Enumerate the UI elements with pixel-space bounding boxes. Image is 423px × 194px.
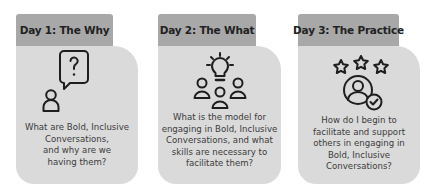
person-question-speech-bubble-icon: [42, 50, 90, 112]
tab-day-2: Day 2: The What: [158, 14, 256, 46]
card-title: Day 2: The What: [160, 24, 255, 36]
tab-day-1: Day 1: The Why: [16, 14, 113, 46]
card-title: Day 1: The Why: [20, 24, 110, 36]
card-day-3: Day 3: The Practice How do I begin to fa…: [298, 14, 420, 184]
user-stars-checkmark-icon: [332, 55, 390, 111]
card-description: What are Bold, Inclusive Conversations, …: [16, 122, 138, 168]
card-description: How do I begin to facilitate and support…: [298, 115, 420, 173]
card-day-1: Day 1: The Why What are Bold, Inclusive …: [16, 14, 138, 184]
tab-day-3: Day 3: The Practice: [298, 14, 399, 46]
card-description: What is the model for engaging in Bold, …: [158, 112, 281, 170]
card-title: Day 3: The Practice: [293, 24, 404, 36]
card-day-2: Day 2: The What What is the model for en…: [158, 14, 281, 184]
group-lightbulb-icon: [193, 52, 247, 110]
